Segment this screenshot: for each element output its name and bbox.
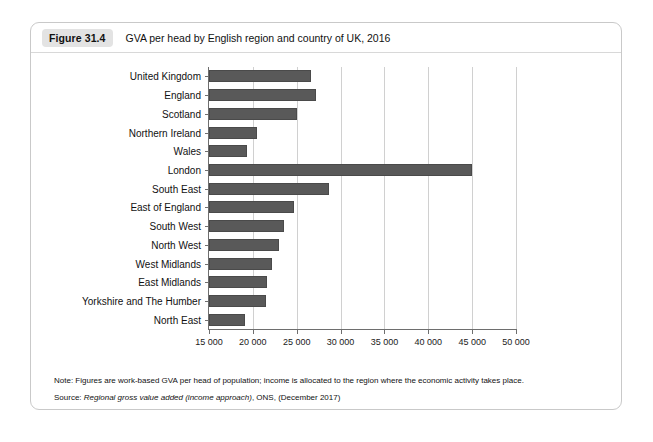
bar-chart-plot-area: 15 00020 00025 00030 00035 00040 00045 0… (208, 67, 516, 330)
figure-source: Source: Regional gross value added (inco… (54, 392, 606, 404)
x-gridline (516, 67, 517, 329)
x-tick-mark (297, 329, 298, 334)
x-gridline (253, 67, 254, 329)
chart-region: 15 00020 00025 00030 00035 00040 00045 0… (31, 53, 623, 373)
y-axis-category-label: Scotland (162, 108, 209, 119)
figure-header: Figure 31.4 GVA per head by English regi… (31, 23, 621, 53)
figure-panel: Figure 31.4 GVA per head by English regi… (30, 22, 622, 410)
y-axis-category-label: South West (149, 221, 209, 232)
figure-note: Note: Figures are work-based GVA per hea… (54, 375, 606, 387)
bar (209, 314, 245, 326)
figure-number-badge: Figure 31.4 (42, 29, 113, 47)
bar (209, 145, 247, 157)
y-axis-category-label: East of England (130, 202, 209, 213)
x-axis-tick-label: 35 000 (371, 337, 399, 347)
x-axis-tick-label: 50 000 (502, 337, 530, 347)
x-axis-tick-label: 15 000 (195, 337, 223, 347)
x-gridline (384, 67, 385, 329)
y-axis-category-label: England (164, 90, 209, 101)
y-axis-category-label: Yorkshire and The Humber (82, 295, 209, 306)
bar (209, 295, 266, 307)
y-axis-category-label: West Midlands (136, 258, 209, 269)
source-prefix: Source: (54, 393, 84, 402)
y-axis-category-label: North East (154, 314, 209, 325)
x-axis-tick-label: 30 000 (327, 337, 355, 347)
source-suffix: , ONS, (December 2017) (252, 393, 340, 402)
bar (209, 239, 279, 251)
x-gridline (341, 67, 342, 329)
x-gridline (428, 67, 429, 329)
bar (209, 276, 267, 288)
y-axis-category-label: South East (152, 183, 209, 194)
bar (209, 127, 257, 139)
bar (209, 89, 316, 101)
figure-title: GVA per head by English region and count… (126, 32, 391, 44)
bar (209, 258, 272, 270)
x-axis-tick-label: 40 000 (415, 337, 443, 347)
y-axis-category-label: London (168, 164, 209, 175)
x-tick-mark (516, 329, 517, 334)
x-tick-mark (253, 329, 254, 334)
x-axis-tick-label: 25 000 (283, 337, 311, 347)
bar (209, 220, 284, 232)
x-axis-tick-label: 20 000 (239, 337, 267, 347)
x-tick-mark (384, 329, 385, 334)
bar (209, 70, 311, 82)
y-axis-category-label: East Midlands (138, 277, 209, 288)
y-axis-category-label: North West (151, 239, 209, 250)
bar (209, 201, 294, 213)
bar (209, 183, 329, 195)
x-gridline (297, 67, 298, 329)
x-tick-mark (428, 329, 429, 334)
x-tick-mark (472, 329, 473, 334)
x-gridline (472, 67, 473, 329)
x-tick-mark (209, 329, 210, 334)
source-title: Regional gross value added (income appro… (84, 393, 252, 402)
y-axis-category-label: Northern Ireland (129, 127, 209, 138)
y-axis-category-label: Wales (174, 146, 209, 157)
figure-notes: Note: Figures are work-based GVA per hea… (54, 375, 606, 408)
y-axis-category-label: United Kingdom (130, 71, 209, 82)
x-tick-mark (341, 329, 342, 334)
bar (209, 108, 297, 120)
bar (209, 164, 472, 176)
x-axis-tick-label: 45 000 (458, 337, 486, 347)
